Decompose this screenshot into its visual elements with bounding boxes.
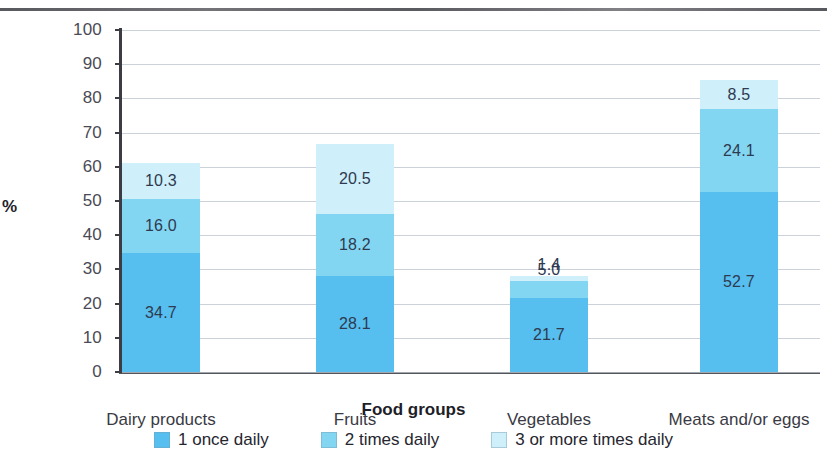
bar-group[interactable]: 52.724.18.5 [700, 30, 778, 372]
bar-value-label: 20.5 [339, 170, 371, 188]
bar-segment[interactable]: 24.1 [700, 109, 778, 191]
bar-value-label: 1.4 [510, 256, 588, 274]
y-axis-tick [115, 200, 122, 202]
y-axis-tick-label: 60 [56, 157, 102, 177]
y-axis-tick-label: 40 [56, 225, 102, 245]
chart-legend: 1 once daily2 times daily3 or more times… [0, 430, 827, 450]
y-axis-tick [115, 234, 122, 236]
y-axis-tick [115, 371, 122, 373]
bar-segment[interactable] [510, 281, 588, 298]
legend-color-swatch [321, 432, 337, 448]
legend-item[interactable]: 1 once daily [154, 430, 269, 450]
legend-label: 2 times daily [345, 430, 439, 450]
y-axis-tick [115, 337, 122, 339]
bar-value-label: 8.5 [728, 86, 751, 104]
y-axis-tick [115, 303, 122, 305]
y-axis-tick [115, 29, 122, 31]
stacked-bar-chart: % 010203040506070809010034.716.010.3Dair… [0, 0, 827, 462]
bar-segment[interactable]: 18.2 [316, 214, 394, 276]
y-axis-tick-label: 30 [56, 259, 102, 279]
y-axis-tick [115, 63, 122, 65]
legend-label: 1 once daily [178, 430, 269, 450]
x-axis-label: Food groups [0, 400, 827, 420]
legend-item[interactable]: 2 times daily [321, 430, 439, 450]
bar-segment[interactable]: 34.7 [122, 253, 200, 372]
gridline [122, 372, 820, 373]
y-axis-tick-label: 70 [56, 123, 102, 143]
bar-group[interactable]: 34.716.010.3 [122, 30, 200, 372]
bar-segment[interactable]: 21.7 [510, 298, 588, 372]
bar-group[interactable]: 28.118.220.5 [316, 30, 394, 372]
legend-item[interactable]: 3 or more times daily [491, 430, 673, 450]
y-axis-tick-label: 0 [56, 362, 102, 382]
bar-value-label: 24.1 [723, 142, 755, 160]
y-axis-tick [115, 97, 122, 99]
bar-value-label: 18.2 [339, 236, 371, 254]
bar-segment[interactable]: 8.5 [700, 80, 778, 109]
y-axis-tick-label: 20 [56, 294, 102, 314]
y-axis-tick-label: 50 [56, 191, 102, 211]
y-axis-tick-label: 90 [56, 54, 102, 74]
bar-value-label: 52.7 [723, 273, 755, 291]
y-axis-tick-label: 100 [56, 20, 102, 40]
bar-value-label: 28.1 [339, 315, 371, 333]
legend-color-swatch [491, 432, 507, 448]
bar-segment[interactable]: 10.3 [122, 163, 200, 198]
bar-value-label: 16.0 [145, 217, 177, 235]
bar-value-label: 21.7 [533, 326, 565, 344]
y-axis-tick-label: 10 [56, 328, 102, 348]
y-axis-label: % [2, 197, 17, 217]
legend-label: 3 or more times daily [515, 430, 673, 450]
y-axis-tick-label: 80 [56, 88, 102, 108]
bar-value-label: 10.3 [145, 172, 177, 190]
bar-segment[interactable]: 16.0 [122, 199, 200, 254]
y-axis-tick [115, 166, 122, 168]
bar-segment[interactable]: 52.7 [700, 192, 778, 372]
bar-segment[interactable]: 20.5 [316, 144, 394, 214]
y-axis-tick [115, 268, 122, 270]
bar-segment[interactable]: 28.1 [316, 276, 394, 372]
bar-segment[interactable] [510, 276, 588, 281]
bar-group[interactable]: 21.75.01.4 [510, 30, 588, 372]
plot-area: 010203040506070809010034.716.010.3Dairy … [122, 30, 820, 372]
bar-value-label: 34.7 [145, 304, 177, 322]
legend-color-swatch [154, 432, 170, 448]
y-axis-tick [115, 132, 122, 134]
